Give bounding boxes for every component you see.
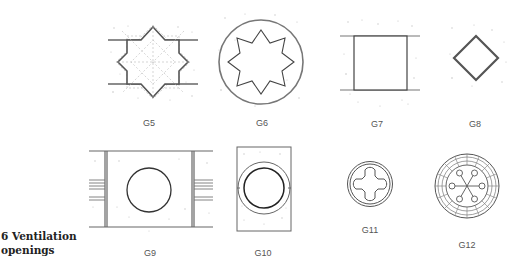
panel-g8 bbox=[446, 22, 510, 90]
diamond-icon bbox=[446, 22, 510, 90]
panel-g10 bbox=[236, 146, 294, 232]
caption-line-2: openings bbox=[1, 243, 77, 257]
label-g6: G6 bbox=[247, 118, 277, 128]
double-ring-icon bbox=[236, 146, 294, 232]
panel-g12 bbox=[433, 152, 501, 220]
label-g8: G8 bbox=[460, 119, 490, 129]
wheel-icon bbox=[433, 152, 501, 220]
caption-line-1: 6 Ventilation bbox=[1, 229, 77, 243]
quatrefoil-icon bbox=[346, 160, 394, 208]
circle-panel-icon bbox=[89, 147, 213, 233]
label-g11: G11 bbox=[355, 225, 385, 235]
figure-caption: 6 Ventilation openings bbox=[1, 229, 77, 257]
panel-g7 bbox=[338, 14, 422, 110]
label-g12: G12 bbox=[452, 240, 482, 250]
label-g5: G5 bbox=[134, 118, 164, 128]
panel-g6 bbox=[215, 10, 307, 110]
label-g9: G9 bbox=[135, 248, 165, 258]
panel-g9 bbox=[89, 147, 213, 233]
label-g10: G10 bbox=[248, 248, 278, 258]
square-opening-icon bbox=[338, 14, 422, 110]
panel-g11 bbox=[346, 160, 394, 208]
label-g7: G7 bbox=[362, 119, 392, 129]
panel-g5 bbox=[108, 22, 198, 102]
eight-point-star-icon bbox=[108, 22, 198, 102]
star-in-circle-icon bbox=[215, 10, 307, 110]
